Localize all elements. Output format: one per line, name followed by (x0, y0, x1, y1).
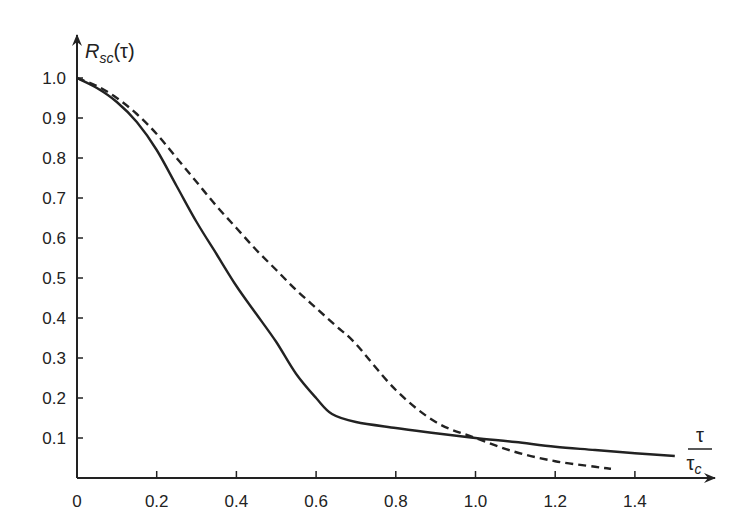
y-tick-label: 0.6 (42, 229, 66, 248)
x-tick-label: 1.0 (464, 492, 488, 511)
y-tick-label: 0.9 (42, 109, 66, 128)
y-tick-label: 0.7 (42, 189, 66, 208)
x-tick-label: 0 (72, 492, 81, 511)
svg-text:τc: τc (687, 452, 702, 477)
x-tick-label: 0.2 (145, 492, 169, 511)
axis-labels: Rsc(τ) τ τc (85, 40, 712, 477)
x-tick-label: 0.6 (304, 492, 328, 511)
x-tick-label: 0.4 (225, 492, 249, 511)
ticks: 00.20.40.60.81.01.21.40.10.20.30.40.50.6… (42, 69, 646, 511)
series-group (77, 78, 675, 469)
y-tick-label: 0.8 (42, 149, 66, 168)
series-dashed-line (77, 78, 611, 469)
y-tick-label: 0.5 (42, 269, 66, 288)
x-tick-label: 1.2 (543, 492, 567, 511)
y-tick-label: 0.2 (42, 389, 66, 408)
x-tick-label: 0.8 (384, 492, 408, 511)
chart: 00.20.40.60.81.01.21.40.10.20.30.40.50.6… (0, 0, 747, 532)
y-tick-label: 0.4 (42, 309, 66, 328)
axes (77, 35, 715, 478)
svg-text:τ: τ (696, 424, 704, 446)
y-tick-label: 0.1 (42, 429, 66, 448)
series-solid-line (77, 78, 675, 456)
y-tick-label: 0.3 (42, 349, 66, 368)
x-axis-label: τ τc (687, 424, 712, 477)
x-tick-label: 1.4 (623, 492, 647, 511)
y-tick-label: 1.0 (42, 69, 66, 88)
y-axis-label: Rsc(τ) (85, 40, 135, 66)
